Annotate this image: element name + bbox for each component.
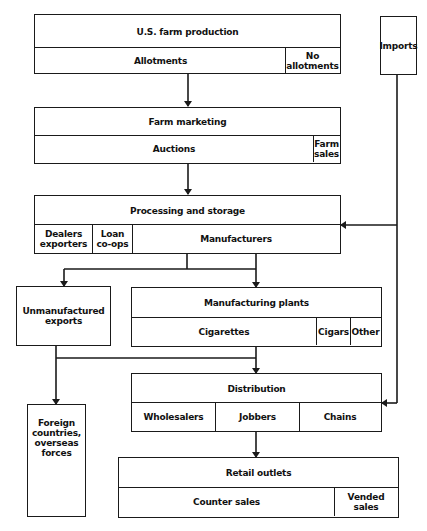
- part-auctions: Auctions: [35, 136, 313, 162]
- node-title: Manufacturing plants: [132, 288, 381, 318]
- node-farm-marketing: Farm marketing Auctions Farm sales: [34, 107, 341, 164]
- part-manufacturers: Manufacturers: [133, 225, 339, 253]
- part-no-allotments: No allotments: [286, 48, 339, 73]
- part-other: Other: [351, 318, 380, 345]
- part-loan-coops: Loan co-ops: [93, 225, 132, 253]
- part-allotments: Allotments: [35, 48, 286, 73]
- part-wholesalers: Wholesalers: [132, 403, 215, 431]
- node-title: Farm marketing: [35, 108, 340, 136]
- part-counter-sales: Counter sales: [119, 488, 334, 516]
- node-unmanufactured-exports: Unmanufactured exports: [16, 286, 111, 346]
- node-foreign-countries: Foreign countries, overseas forces: [27, 404, 86, 517]
- part-cigars: Cigars: [317, 318, 350, 345]
- part-dealers-exporters: Dealers exporters: [35, 225, 92, 253]
- node-us-farm-production: U.S. farm production Allotments No allot…: [34, 14, 341, 74]
- node-title: Foreign countries, overseas forces: [28, 405, 85, 471]
- part-jobbers: Jobbers: [216, 403, 299, 431]
- part-cigarettes: Cigarettes: [132, 318, 316, 345]
- node-processing-storage: Processing and storage Dealers exporters…: [34, 195, 341, 254]
- node-title: Processing and storage: [35, 196, 340, 225]
- part-farm-sales: Farm sales: [314, 136, 339, 162]
- node-title: Unmanufactured exports: [17, 287, 110, 345]
- node-retail-outlets: Retail outlets Counter sales Vended sale…: [118, 457, 399, 518]
- node-title: Retail outlets: [119, 458, 398, 488]
- node-manufacturing-plants: Manufacturing plants Cigarettes Cigars O…: [131, 287, 382, 347]
- node-imports: Imports: [380, 16, 417, 75]
- part-vended-sales: Vended sales: [335, 488, 397, 516]
- node-title: Distribution: [132, 374, 381, 403]
- node-distribution: Distribution Wholesalers Jobbers Chains: [131, 373, 382, 432]
- part-chains: Chains: [300, 403, 380, 431]
- node-title: U.S. farm production: [35, 15, 340, 48]
- node-title: Imports: [381, 17, 416, 74]
